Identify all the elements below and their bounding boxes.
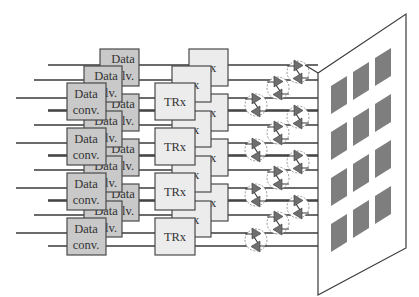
phase-shifter-amplifier-icon [245,93,267,117]
block-label: TRx [164,140,187,154]
phase-shifter-amplifier-icon [287,105,309,129]
data-converter-block: Data conv. [67,128,106,165]
block-label: lv. [105,86,117,100]
phase-shifter-amplifier-icon [245,228,267,252]
phase-shifter-amplifier-icon [287,60,309,84]
block-label: Data [74,132,98,146]
trx-block: TRx [155,128,195,165]
block-label: Data [74,177,98,191]
block-label: lv. [122,69,134,83]
block-label: lv. [122,114,134,128]
block-label: Data [111,52,135,66]
block-label: lv. [122,204,134,218]
phase-shifter-amplifier-icon [287,195,309,219]
phase-shifter-amplifier-icon [245,138,267,162]
block-label: conv. [73,103,100,117]
block-label: conv. [73,238,100,252]
antenna-panel [305,14,406,295]
data-converter-block: Data conv. [67,173,106,210]
block-label: lv. [122,159,134,173]
block-label: conv. [73,193,100,207]
phase-shifter-amplifier-icon [245,183,267,207]
data-converter-block: Data conv. [67,218,106,255]
block-label: lv. [105,131,117,145]
trx-block: TRx [155,83,195,120]
block-label: conv. [73,148,100,162]
trx-block: TRx [155,173,195,210]
data-converter-block: Data conv. [67,83,106,120]
block-label: Data [74,87,98,101]
phase-shifter-amplifier-icon [287,150,309,174]
block-label: lv. [105,221,117,235]
block-label: TRx [164,95,187,109]
block-label: TRx [164,230,187,244]
phased-array-diagram: Data lv. Data lv. Data lv. Data lv. x x [0,0,419,297]
block-label: lv. [105,176,117,190]
block-label: Data [74,222,98,236]
trx-block: TRx [155,218,195,255]
block-label: TRx [164,185,187,199]
block-label: Data [94,69,118,83]
